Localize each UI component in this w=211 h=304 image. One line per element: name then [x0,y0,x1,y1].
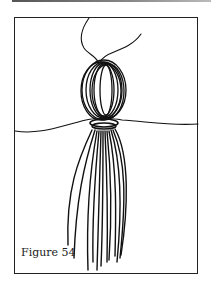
tassel-loops [81,60,126,120]
tassel-strands [68,129,127,270]
hanging-cord [81,18,141,62]
tie-string [15,119,198,132]
figure-caption: Figure 54 [21,246,76,259]
